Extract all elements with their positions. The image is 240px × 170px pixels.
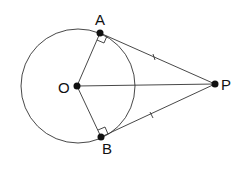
segment-OP (77, 84, 215, 86)
tangent-AP (100, 33, 215, 84)
point-P (212, 81, 219, 88)
label-P: P (221, 77, 231, 92)
radius-OA (77, 33, 100, 86)
point-O (74, 83, 81, 90)
label-B: B (102, 141, 112, 156)
tangent-BP (101, 84, 215, 137)
tangent-diagram: A B O P (0, 0, 240, 170)
radius-OB (77, 86, 101, 137)
point-A (97, 30, 104, 37)
label-O: O (58, 80, 70, 95)
label-A: A (95, 12, 105, 27)
diagram-canvas (0, 0, 240, 170)
